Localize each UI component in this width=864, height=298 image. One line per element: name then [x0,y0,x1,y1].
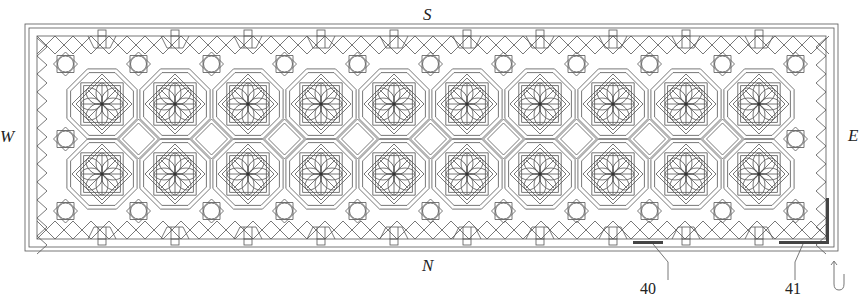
u-turn-arrow-icon [831,261,844,290]
petal-rib [248,174,262,188]
side-lattice [37,182,47,200]
petal-rib [467,104,481,118]
rosette-center [611,172,614,175]
rosette-center [611,102,614,105]
petal-rib [321,104,335,118]
rosette-center [100,102,103,105]
petal-rib [672,160,686,174]
orientation-west: W [0,128,14,145]
border-knob [244,30,252,36]
border-bracket [88,36,116,48]
medallion-circle [788,131,804,147]
diamond-outer [265,119,305,159]
petal-rib [175,160,189,174]
petal-rib [745,104,759,118]
border-knob [755,239,763,245]
side-lattice [816,110,826,128]
petal-rib [540,104,554,118]
side-lattice [816,200,826,218]
petal-rib [248,90,262,104]
side-lattice [37,128,47,146]
petal-rib [467,160,481,174]
border-bracket [526,227,554,239]
rosette-center [465,172,468,175]
rosette-center [538,102,541,105]
petal-rib [307,160,321,174]
petal-rib [380,104,394,118]
petal-rib [380,90,394,104]
petal-rib [234,160,248,174]
side-lattice [816,128,826,146]
pattern-drawing [0,0,864,298]
component-41-strip-side [826,198,829,244]
petal-rib [453,90,467,104]
border-bracket [526,36,554,48]
border-bracket [234,227,262,239]
diamond-outer [630,119,670,159]
side-lattice [816,182,826,200]
petal-rib [380,160,394,174]
medallion-circle [569,56,585,72]
petal-rib [175,174,189,188]
medallion-circle [58,56,74,72]
petal-rib [613,160,627,174]
petal-rib [526,104,540,118]
petal-rib [540,174,554,188]
petal-rib [540,90,554,104]
border-bracket [672,227,700,239]
orientation-south: S [423,6,432,23]
border-knob [317,239,325,245]
petal-rib [599,90,613,104]
side-lattice [37,92,47,110]
rosette-center [319,172,322,175]
border-knob [463,239,471,245]
petal-rib [467,90,481,104]
medallion-circle [642,56,658,72]
rosette-center [684,172,687,175]
border-knob [98,239,106,245]
petal-rib [394,90,408,104]
rosette-center [465,102,468,105]
petal-rib [88,160,102,174]
petal-rib [307,90,321,104]
petal-rib [234,174,248,188]
petal-rib [161,174,175,188]
petal-rib [599,174,613,188]
medallion-circle [131,203,147,219]
petal-rib [394,174,408,188]
petal-rib [161,104,175,118]
leader-line-40 [653,244,668,280]
petal-rib [394,104,408,118]
petal-rib [380,174,394,188]
petal-rib [394,160,408,174]
side-lattice [816,146,826,164]
petal-rib [102,160,116,174]
border-bracket [88,227,116,239]
medallion-circle [788,56,804,72]
side-lattice [37,200,47,218]
border-knob [317,30,325,36]
diamond-outer [119,119,159,159]
petal-rib [161,90,175,104]
petal-rib [759,160,773,174]
side-lattice [37,74,47,92]
petal-rib [248,160,262,174]
petal-rib [686,174,700,188]
border-knob [609,30,617,36]
petal-rib [613,104,627,118]
border-bracket [380,227,408,239]
petal-rib [307,104,321,118]
border-knob [536,30,544,36]
medallion-circle [715,56,731,72]
petal-rib [175,104,189,118]
petal-rib [175,90,189,104]
petal-rib [453,104,467,118]
side-lattice [816,74,826,92]
medallion-circle [423,203,439,219]
side-lattice [37,56,47,74]
border-knob [171,30,179,36]
rosette-center [392,172,395,175]
border-knob [171,239,179,245]
component-41-strip-bottom [779,241,829,244]
petal-rib [248,104,262,118]
